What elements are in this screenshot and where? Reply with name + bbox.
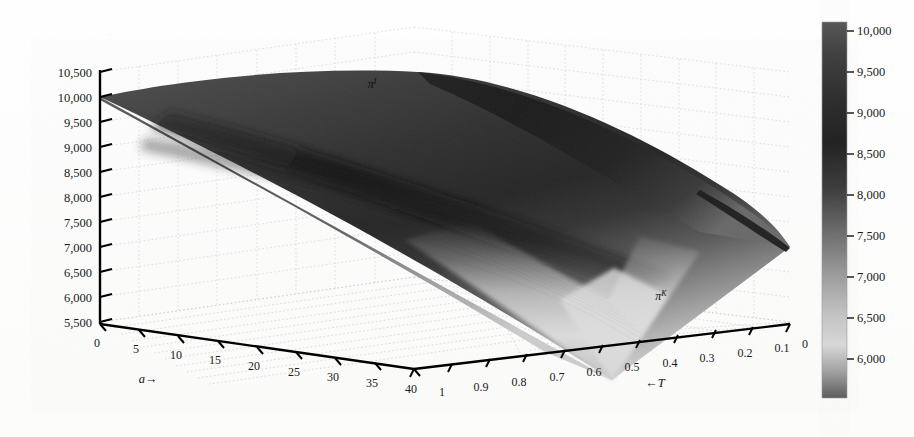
a-tick-label: 0: [94, 336, 100, 350]
colorbar-grain: [822, 22, 847, 398]
z-tick-label: 10,000: [58, 91, 92, 105]
colorbar-tick-label: 9,000: [857, 106, 885, 120]
z-tick-label: 6,000: [64, 291, 92, 305]
z-tick-labels: 10,500 10,000 9,500 9,000 8,500 8,000 7,…: [58, 66, 92, 330]
t-axis-title: ←T: [645, 376, 666, 390]
t-tick-label: 0.5: [625, 360, 640, 374]
t-tick-label: 0.9: [474, 380, 489, 394]
a-tick-label: 20: [248, 359, 260, 373]
a-tick-label: 5: [133, 342, 139, 356]
colorbar[interactable]: 10,000 9,500 9,000 8,500 8,000 7,500 7,0…: [822, 22, 891, 398]
z-tick-label: 8,500: [64, 166, 92, 180]
colorbar-tick-label: 8,000: [857, 188, 885, 202]
a-tick-label: 10: [170, 348, 182, 362]
z-tick-label: 7,000: [64, 241, 92, 255]
z-tick-label: 7,500: [64, 216, 92, 230]
z-axis-ticks: [100, 69, 112, 322]
colorbar-tick-label: 8,500: [857, 147, 885, 161]
surface-scan-grain: [100, 71, 790, 380]
colorbar-tick-label: 7,500: [857, 229, 885, 243]
surface-plot-svg: 10,500 10,000 9,500 9,000 8,500 8,000 7,…: [0, 0, 914, 437]
colorbar-tick-label: 6,000: [857, 352, 885, 366]
z-tick-label: 5,500: [64, 316, 92, 330]
t-tick-label: 0.4: [663, 356, 678, 370]
z-tick-label: 9,500: [64, 116, 92, 130]
colorbar-tick-label: 7,000: [857, 270, 885, 284]
a-tick-label: 25: [288, 365, 300, 379]
surface-mesh: [100, 71, 790, 380]
colorbar-ticks: [847, 31, 854, 359]
t-tick-label: 0.6: [587, 365, 602, 379]
t-tick-label: 0.1: [775, 341, 790, 355]
z-tick-label: 6,500: [64, 266, 92, 280]
z-tick-label: 10,500: [58, 66, 92, 80]
a-tick-label: 35: [366, 376, 378, 390]
colorbar-tick-labels: 10,000 9,500 9,000 8,500 8,000 7,500 7,0…: [857, 24, 891, 366]
a-tick-label: 30: [327, 370, 339, 384]
t-tick-label: 0.3: [700, 351, 715, 365]
t-tick-label: 0.7: [550, 370, 565, 384]
t-tick-label: 0: [802, 337, 808, 351]
colorbar-tick-label: 10,000: [857, 24, 891, 38]
a-tick-label: 40: [405, 382, 417, 396]
figure-canvas: 10,500 10,000 9,500 9,000 8,500 8,000 7,…: [0, 0, 914, 437]
a-tick-labels: 0 5 10 15 20 25 30 35 40: [94, 336, 417, 396]
t-tick-label: 1: [439, 385, 445, 399]
z-tick-label: 9,000: [64, 141, 92, 155]
a-tick-label: 15: [209, 353, 221, 367]
a-axis-title: a→: [139, 372, 158, 386]
colorbar-tick-label: 9,500: [857, 65, 885, 79]
t-tick-label: 0.8: [512, 375, 527, 389]
t-tick-label: 0.2: [738, 346, 753, 360]
colorbar-tick-label: 6,500: [857, 311, 885, 325]
z-tick-label: 8,000: [64, 191, 92, 205]
